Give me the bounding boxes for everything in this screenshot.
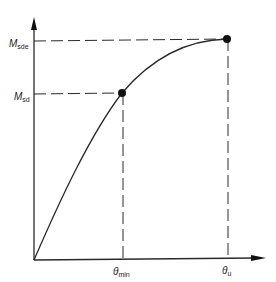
x-axis <box>34 258 256 260</box>
m-sde-label: Msde <box>9 34 29 50</box>
m-sde-guide-line <box>34 39 226 41</box>
m-sd-label: Msd <box>14 87 30 103</box>
m-sd-guide-line <box>34 93 121 94</box>
design-point-marker <box>118 89 126 97</box>
moment-rotation-diagram <box>0 0 276 282</box>
ultimate-point-marker <box>223 35 231 43</box>
moment-rotation-curve <box>34 39 227 260</box>
y-axis-arrow-icon <box>31 17 37 30</box>
theta-min-label: θmin <box>113 262 130 278</box>
theta-u-label: θu <box>222 261 231 277</box>
x-axis-arrow-icon <box>251 255 266 261</box>
